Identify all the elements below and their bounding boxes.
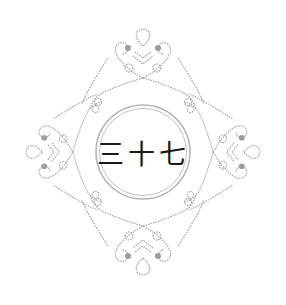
emblem-text: 三十七 (93, 132, 193, 172)
ornament-left (26, 94, 103, 210)
ornament-bottom (82, 194, 204, 275)
ornament-right (183, 94, 260, 210)
ornament-top (82, 29, 204, 110)
